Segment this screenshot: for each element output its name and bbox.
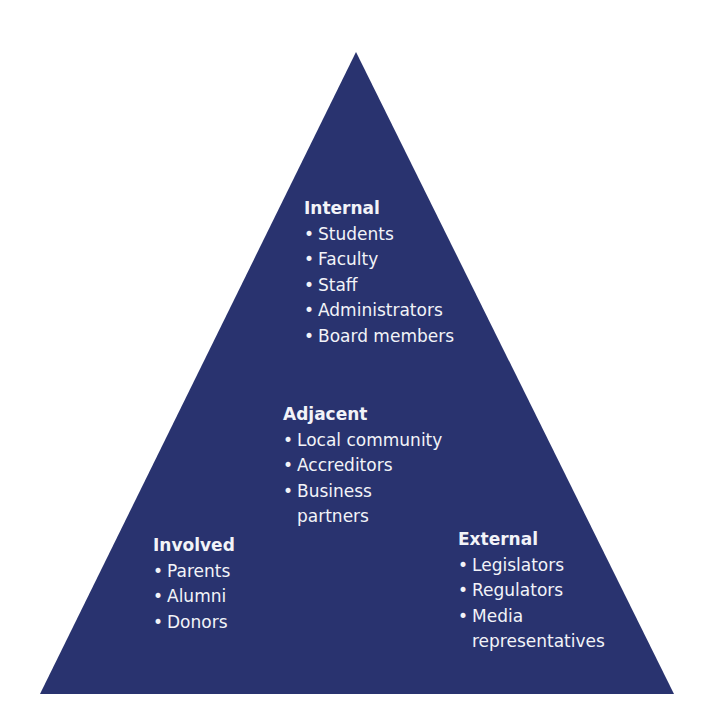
list-item: Accreditors (283, 453, 453, 479)
list-item: Donors (153, 610, 235, 636)
list-item: Board members (304, 324, 454, 350)
group-title-internal: Internal (304, 196, 454, 222)
list-item: Media representatives (458, 604, 622, 655)
list-involved: Parents Alumni Donors (153, 559, 235, 636)
group-internal: Internal Students Faculty Staff Administ… (304, 196, 454, 349)
list-item: Staff (304, 273, 454, 299)
list-adjacent: Local community Accreditors Business par… (283, 428, 453, 530)
group-title-adjacent: Adjacent (283, 402, 453, 428)
group-adjacent: Adjacent Local community Accreditors Bus… (283, 402, 453, 530)
group-title-external: External (458, 527, 622, 553)
group-external: External Legislators Regulators Media re… (458, 527, 622, 655)
list-item: Faculty (304, 247, 454, 273)
list-item: Business partners (283, 479, 387, 530)
list-item: Regulators (458, 578, 622, 604)
list-item: Local community (283, 428, 453, 454)
list-item: Parents (153, 559, 235, 585)
list-external: Legislators Regulators Media representat… (458, 553, 622, 655)
list-item: Students (304, 222, 454, 248)
list-item: Administrators (304, 298, 454, 324)
list-item: Legislators (458, 553, 622, 579)
group-involved: Involved Parents Alumni Donors (153, 533, 235, 635)
list-item: Alumni (153, 584, 235, 610)
group-title-involved: Involved (153, 533, 235, 559)
list-internal: Students Faculty Staff Administrators Bo… (304, 222, 454, 350)
